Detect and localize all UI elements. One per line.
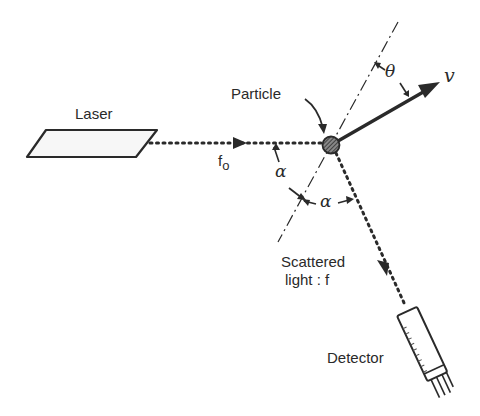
arrowhead-icon (233, 137, 247, 149)
frequency-subscript: o (222, 158, 229, 173)
diagram-graphics (0, 0, 480, 416)
theta-label: θ (385, 63, 395, 80)
velocity-label: v (444, 66, 455, 85)
velocity-arrow (338, 82, 440, 141)
laser-icon (27, 130, 157, 157)
alpha-left-label: α (275, 163, 286, 180)
diagram-canvas: Laser Particle fo θ v α α Scattered ligh… (0, 0, 480, 416)
particle-icon (323, 137, 340, 154)
incident-beam (150, 137, 322, 149)
scattered-beam (336, 153, 405, 305)
bisector-line (278, 22, 398, 242)
incident-frequency-label: fo (218, 153, 229, 168)
alpha-right-label: α (320, 193, 331, 210)
scattered-label-line1: Scattered (281, 254, 345, 269)
detector-label: Detector (327, 350, 384, 365)
scattered-label-line2: light : f (285, 272, 329, 287)
particle-label: Particle (231, 86, 281, 101)
detector-icon (397, 307, 456, 400)
particle-pointer (305, 99, 327, 134)
laser-label: Laser (75, 106, 113, 121)
arrowhead-icon (377, 260, 389, 276)
